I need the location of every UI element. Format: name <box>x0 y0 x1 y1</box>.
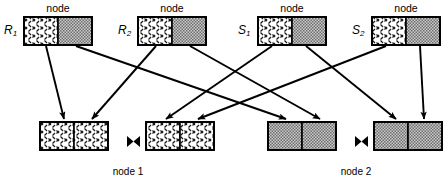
relation-label-subscript-n3: 1 <box>246 29 250 38</box>
result-box-b4 <box>374 122 442 150</box>
node-box-n2 <box>138 17 206 45</box>
node-box-n4-right-fragment <box>406 17 440 45</box>
node-box-n2-right-fragment <box>172 17 206 45</box>
node-caption-n4: node <box>391 3 421 14</box>
result-box-b2-left-fragment <box>146 122 180 150</box>
relation-label-subscript-n4: 2 <box>360 29 364 38</box>
node-box-n3-right-fragment <box>292 17 326 45</box>
result-box-b3-left-fragment <box>268 122 302 150</box>
result-box-b3-right-fragment <box>302 122 336 150</box>
result-box-b3 <box>268 122 336 150</box>
result-box-b4-left-fragment <box>374 122 408 150</box>
relation-label-n4: S2 <box>352 25 364 39</box>
node-box-n1-right-fragment <box>58 17 92 45</box>
node-box-n1-left-fragment <box>24 17 58 45</box>
node-box-n3-left-fragment <box>258 17 292 45</box>
bowtie-icon-left-j2 <box>355 136 362 147</box>
fragment-boxes <box>24 17 442 150</box>
connector-arrow-e8 <box>420 46 424 119</box>
relation-label-base-n1: R <box>4 23 13 37</box>
result-box-b2-right-fragment <box>180 122 214 150</box>
node-box-n4-left-fragment <box>372 17 406 45</box>
relation-label-subscript-n1: 1 <box>13 29 17 38</box>
relation-label-n1: R1 <box>4 25 17 39</box>
result-box-b1-right-fragment <box>74 122 108 150</box>
result-box-b1 <box>40 122 108 150</box>
node-caption-n2: node <box>157 3 187 14</box>
diagram-svg <box>0 0 448 187</box>
bowtie-icon-left-j1 <box>127 136 134 147</box>
connector-arrow-e7 <box>198 46 386 119</box>
diagram-canvas: nodenodenodenodeR1R2S1S2node 1node 2 <box>0 0 448 187</box>
result-box-b2 <box>146 122 214 150</box>
relation-label-base-n2: R <box>118 23 127 37</box>
result-box-b4-right-fragment <box>408 122 442 150</box>
join-symbol-j1 <box>127 136 140 147</box>
site-caption-c2: node 2 <box>316 167 396 177</box>
node-box-n3 <box>258 17 326 45</box>
connector-arrow-e3 <box>92 46 156 119</box>
bowtie-icon-right-j1 <box>134 136 141 147</box>
site-caption-c1: node 1 <box>88 167 168 177</box>
node-box-n1 <box>24 17 92 45</box>
relation-label-n2: R2 <box>118 25 131 39</box>
connector-arrow-e1 <box>46 46 64 119</box>
relation-label-base-n3: S <box>238 23 246 37</box>
relation-label-base-n4: S <box>352 23 360 37</box>
node-caption-n3: node <box>277 3 307 14</box>
node-box-n2-left-fragment <box>138 17 172 45</box>
relation-label-n3: S1 <box>238 25 250 39</box>
join-symbol-j2 <box>355 136 368 147</box>
bowtie-icon-right-j2 <box>362 136 369 147</box>
connector-edges <box>46 46 424 119</box>
connector-arrow-e6 <box>306 46 396 119</box>
result-box-b1-left-fragment <box>40 122 74 150</box>
node-caption-n1: node <box>43 3 73 14</box>
relation-label-subscript-n2: 2 <box>127 29 131 38</box>
node-box-n4 <box>372 17 440 45</box>
